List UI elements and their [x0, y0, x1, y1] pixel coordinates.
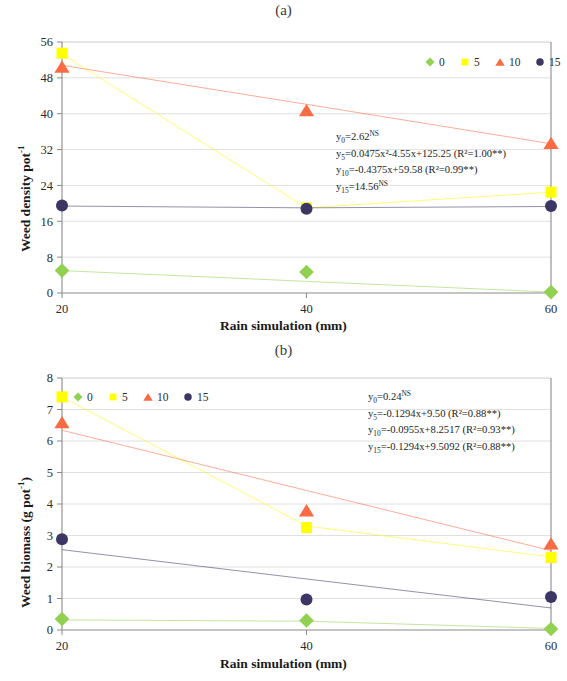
panel-b-plot: 012345678204060051015y0=0.24NSy5=-0.1294… [0, 340, 567, 680]
data-point-circle [301, 203, 313, 215]
panel-b: (b) 012345678204060051015y0=0.24NSy5=-0.… [0, 340, 567, 680]
y-title-tail-b: ) [18, 477, 33, 482]
y-tick-label: 0 [47, 623, 53, 637]
panel-a-plot: 08162432404856204060051015y0=2.62NSy5=0.… [0, 0, 567, 340]
data-point-circle [56, 533, 68, 545]
equation-annotations: y0=0.24NSy5=-0.1294x+9.50 (R²=0.88**)y10… [368, 389, 515, 455]
equation-line: y0=2.62NS [336, 129, 379, 145]
equation-line: y10=-0.0955x+8.2517 (R²=0.93**) [368, 424, 515, 438]
data-point-circle [301, 593, 313, 605]
data-point-triangle [54, 416, 69, 428]
y-tick-label: 3 [47, 529, 53, 543]
equation-line: y5=-0.1294x+9.50 (R²=0.88**) [368, 408, 501, 422]
y-title-sup-a: -1 [16, 145, 26, 153]
y-tick-label: 7 [47, 403, 53, 417]
data-point-diamond [55, 612, 70, 627]
data-point-diamond [544, 285, 559, 300]
panel-a-y-axis-title: Weed density pot-1 [16, 145, 34, 252]
data-point-triangle [299, 104, 314, 116]
y-tick-label: 1 [47, 592, 53, 606]
panel-b-x-axis-title: Rain simulation (mm) [0, 656, 567, 672]
panel-a-x-axis-title: Rain simulation (mm) [0, 318, 567, 334]
panel-b-svg: 012345678204060051015y0=0.24NSy5=-0.1294… [0, 340, 567, 680]
data-point-diamond [544, 622, 559, 637]
data-point-diamond [299, 613, 314, 628]
panel-b-y-axis-title: Weed biomass (g pot-1) [16, 477, 34, 608]
y-tick-label: 2 [47, 560, 53, 574]
panel-a: (a) 08162432404856204060051015y0=2.62NSy… [0, 0, 567, 340]
y-title-sup-b: -1 [16, 482, 26, 490]
data-point-square [301, 522, 312, 533]
legend-label: 15 [549, 56, 561, 68]
equation-line: y0=0.24NS [368, 389, 411, 405]
y-tick-label: 6 [47, 434, 53, 448]
y-tick-label: 0 [47, 286, 53, 300]
y-title-text-b: Weed biomass (g pot [18, 489, 33, 608]
data-point-diamond [299, 265, 314, 280]
data-point-triangle [543, 537, 558, 549]
y-tick-label: 48 [41, 71, 54, 85]
equation-line: y15=-0.1294x+9.5092 (R²=0.88**) [368, 441, 515, 455]
data-point-square [57, 391, 68, 402]
x-tick-label: 20 [56, 639, 69, 653]
legend-label: 0 [439, 56, 445, 68]
x-tick-label: 60 [545, 639, 558, 653]
x-tick-label: 20 [56, 302, 69, 316]
legend: 051015 [425, 56, 560, 68]
equation-line: y10=-0.4375x+59.58 (R²=0.99**) [336, 164, 478, 178]
data-point-triangle [299, 504, 314, 516]
data-point-square [546, 187, 557, 198]
y-tick-label: 24 [41, 179, 54, 193]
y-tick-label: 8 [47, 251, 53, 265]
legend-label: 10 [509, 56, 521, 68]
legend-label: 10 [157, 391, 169, 403]
data-point-circle [545, 591, 557, 603]
legend-label: 5 [474, 56, 480, 68]
y-tick-label: 4 [47, 497, 54, 511]
x-tick-label: 40 [300, 302, 313, 316]
y-title-text-a: Weed density pot [18, 153, 33, 252]
y-tick-label: 40 [41, 107, 54, 121]
data-point-square [546, 552, 557, 563]
legend-label: 5 [122, 391, 128, 403]
legend-label: 0 [87, 391, 93, 403]
data-point-square [57, 48, 68, 59]
y-tick-label: 56 [41, 35, 54, 49]
data-point-circle [56, 200, 68, 212]
equation-annotations: y0=2.62NSy5=0.0475x²-4.55x+125.25 (R²=1.… [336, 129, 507, 195]
equation-line: y5=0.0475x²-4.55x+125.25 (R²=1.00**) [336, 148, 507, 162]
y-tick-label: 8 [47, 371, 53, 385]
x-tick-label: 60 [545, 302, 558, 316]
legend-label: 15 [197, 391, 209, 403]
data-point-diamond [55, 263, 70, 278]
y-tick-label: 5 [47, 466, 53, 480]
equation-line: y15=14.56NS [336, 179, 388, 195]
y-tick-label: 32 [41, 143, 54, 157]
x-tick-label: 40 [300, 639, 313, 653]
data-point-circle [545, 200, 557, 212]
legend: 051015 [73, 391, 208, 403]
y-tick-label: 16 [41, 215, 54, 229]
panel-a-svg: 08162432404856204060051015y0=2.62NSy5=0.… [0, 0, 567, 340]
